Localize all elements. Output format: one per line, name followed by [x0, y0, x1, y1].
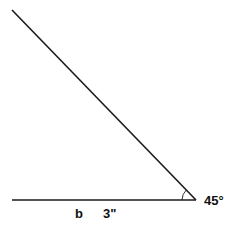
angle-diagram: 45° b 3" [0, 0, 233, 226]
angle-label: 45° [204, 193, 224, 208]
angle-arc [182, 190, 186, 200]
slanted-ray [12, 10, 196, 200]
side-length-label: 3" [103, 206, 116, 221]
side-label: b [75, 206, 83, 221]
